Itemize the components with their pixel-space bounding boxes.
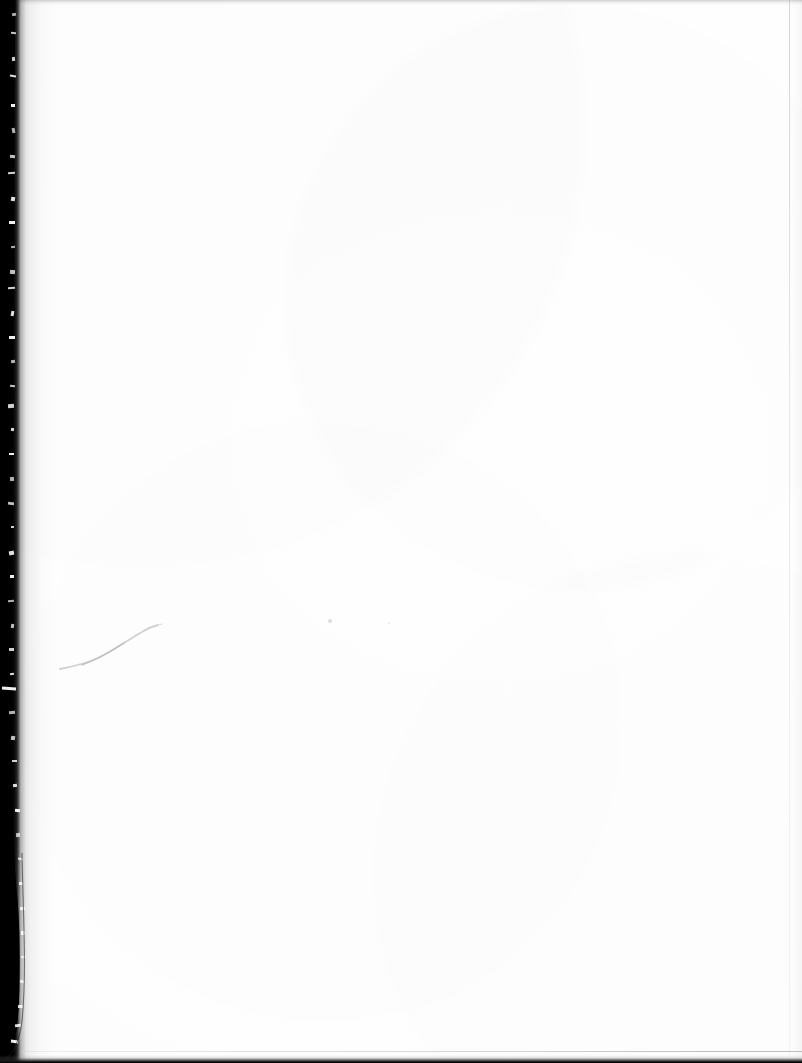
page-background — [0, 0, 802, 1063]
bottom-edge-line — [0, 1055, 802, 1063]
scanned-page — [0, 0, 802, 1063]
top-edge-band — [0, 0, 802, 6]
speck-b — [388, 622, 390, 624]
bottom-edge-hairline — [20, 1051, 802, 1052]
speck-a — [328, 619, 332, 623]
right-edge-line — [789, 0, 790, 1063]
